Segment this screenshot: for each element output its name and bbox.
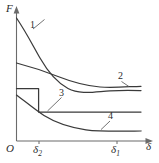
origin-label: O — [6, 143, 14, 154]
y-axis-arrowhead — [14, 6, 20, 14]
x-tick-label-delta1: δ1 — [111, 144, 120, 158]
curve-1-path — [17, 18, 142, 92]
y-axis — [14, 6, 20, 141]
x-tick-label-delta2: δ2 — [33, 144, 42, 158]
curve-label-2: 2 — [118, 71, 123, 81]
curve-label-3: 3 — [59, 88, 64, 98]
x-tick-label-delta1-sub: 1 — [116, 149, 120, 158]
leader-line-3 — [48, 98, 62, 112]
curve-label-4: 4 — [108, 111, 113, 121]
force-vs-delta-chart: F δ O δ2 δ1 1 2 3 4 — [0, 0, 159, 163]
chart-canvas — [0, 0, 159, 163]
x-tick-label-delta2-sub: 2 — [38, 149, 42, 158]
x-axis-label: δ — [146, 141, 151, 152]
leader-line-2 — [122, 82, 130, 87]
curve-label-1: 1 — [30, 20, 35, 30]
curve-4-path — [17, 95, 142, 131]
leader-line-4 — [101, 121, 110, 130]
y-axis-label: F — [6, 3, 13, 14]
